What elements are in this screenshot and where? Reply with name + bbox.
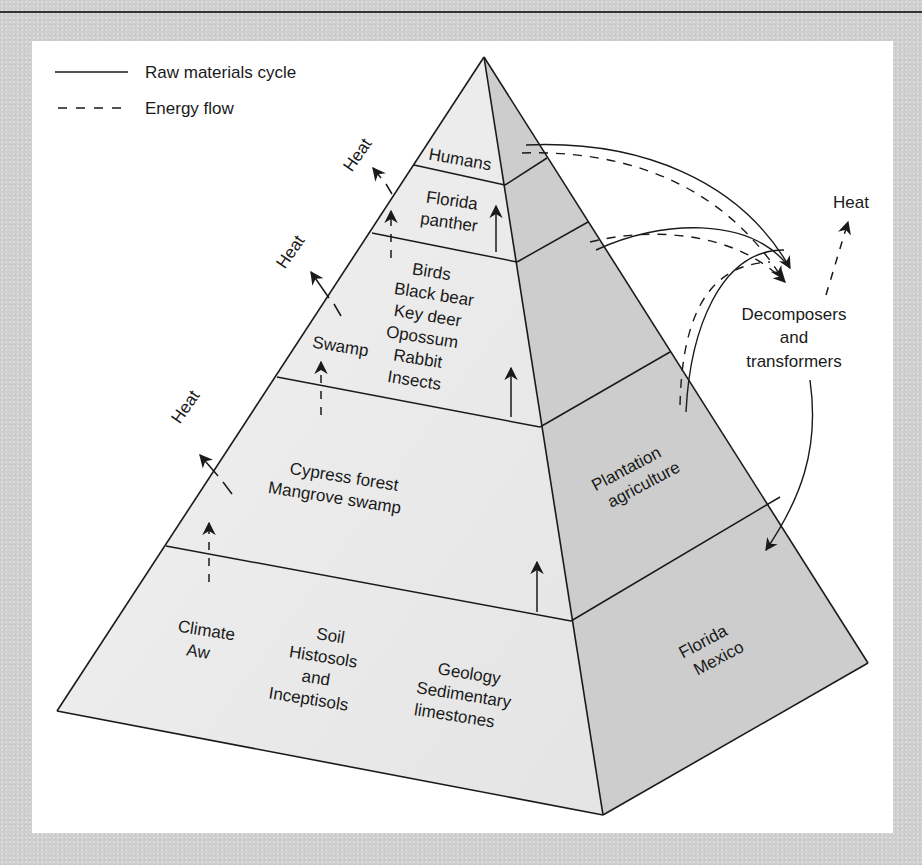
energy-flow-arrow	[680, 262, 770, 405]
decomposers-label-line: and	[780, 328, 808, 347]
heat-label: Heat	[167, 386, 203, 427]
legend: Raw materials cycle Energy flow	[55, 63, 296, 118]
heat-label: Heat	[272, 231, 308, 272]
ecosystem-pyramid-diagram: Raw materials cycle Energy flow Humans F…	[0, 0, 922, 865]
legend-label-energy-flow: Energy flow	[145, 99, 235, 118]
decomposers-label-line: transformers	[746, 352, 841, 371]
heat-label: Heat	[339, 134, 375, 175]
heat-label: Heat	[833, 193, 869, 212]
decomposers-label: Decomposers and transformers	[742, 305, 847, 371]
heat-arrow-icon	[373, 168, 392, 194]
decomposers-label-line: Decomposers	[742, 305, 847, 324]
level-label-line: Aw	[185, 640, 212, 663]
raw-materials-flow-arrow	[686, 250, 784, 412]
legend-label-raw-materials: Raw materials cycle	[145, 63, 296, 82]
heat-arrow-icon	[826, 222, 848, 295]
